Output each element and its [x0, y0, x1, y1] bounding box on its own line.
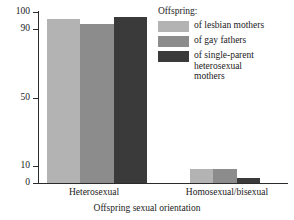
bar: [213, 169, 236, 183]
bar: [237, 178, 260, 183]
x-axis-title: Offspring sexual orientation: [0, 203, 294, 214]
legend-item-single-parent-heterosexual-mothers: of single-parent heterosexual mothers: [158, 50, 292, 82]
bar: [47, 19, 80, 183]
legend-item-lesbian-mothers: of lesbian mothers: [158, 20, 292, 32]
x-axis-label-heterosexual: Heterosexual: [26, 187, 162, 198]
bar: [80, 24, 113, 183]
legend: Offspring: of lesbian mothers of gay fat…: [158, 6, 292, 85]
legend-item-label: of lesbian mothers: [194, 20, 264, 31]
legend-swatch-icon: [158, 21, 189, 32]
chart-figure: 0105090100 Heterosexual Homosexual/bisex…: [0, 0, 294, 220]
bar: [190, 169, 213, 183]
legend-swatch-icon: [158, 51, 189, 62]
legend-item-gay-fathers: of gay fathers: [158, 35, 292, 47]
x-axis-label-homosexual-bisexual: Homosexual/bisexual: [160, 187, 294, 198]
legend-item-label: of gay fathers: [194, 35, 246, 46]
legend-swatch-icon: [158, 36, 189, 47]
bar: [114, 17, 147, 183]
legend-item-label: of single-parent heterosexual mothers: [194, 50, 254, 82]
legend-title: Offspring:: [158, 6, 292, 17]
